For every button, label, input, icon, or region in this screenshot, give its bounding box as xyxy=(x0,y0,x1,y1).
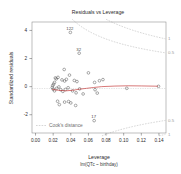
x-tick-label: 0.14 xyxy=(154,138,164,143)
x-axis-sublabel: lm(QTc ~ birthday) xyxy=(80,162,118,167)
x-tick-label: 0.10 xyxy=(119,138,129,143)
y-tick-label: 0 xyxy=(24,84,27,89)
point-label: 32 xyxy=(76,47,81,52)
y-tick-label: -2 xyxy=(24,112,29,117)
point-label: 17 xyxy=(91,114,96,119)
cooks-contour-label: 0.5 xyxy=(168,50,175,55)
x-tick-label: 0.06 xyxy=(84,138,94,143)
chart-title: Residuals vs Leverage xyxy=(72,9,125,15)
x-tick-label: 0.02 xyxy=(49,138,59,143)
y-axis-label: Standardized residuals xyxy=(8,51,14,104)
cooks-distance-legend-label: Cook's distance xyxy=(49,123,83,128)
x-tick-label: 0.00 xyxy=(31,138,41,143)
cooks-contour-label: 0.5 xyxy=(168,118,175,123)
plot-background xyxy=(0,0,181,174)
y-tick-label: 2 xyxy=(24,56,27,61)
chart-root: Residuals vs Leverage 110.50.5 1223217 0… xyxy=(0,0,181,174)
x-axis-label: Leverage xyxy=(88,154,110,160)
x-tick-label: 0.12 xyxy=(137,138,147,143)
point-label: 122 xyxy=(66,26,74,31)
x-tick-label: 0.04 xyxy=(66,138,76,143)
x-tick-label: 0.08 xyxy=(101,138,111,143)
y-tick-label: 4 xyxy=(24,28,27,33)
residuals-vs-leverage-plot: Residuals vs Leverage 110.50.5 1223217 0… xyxy=(0,0,181,174)
